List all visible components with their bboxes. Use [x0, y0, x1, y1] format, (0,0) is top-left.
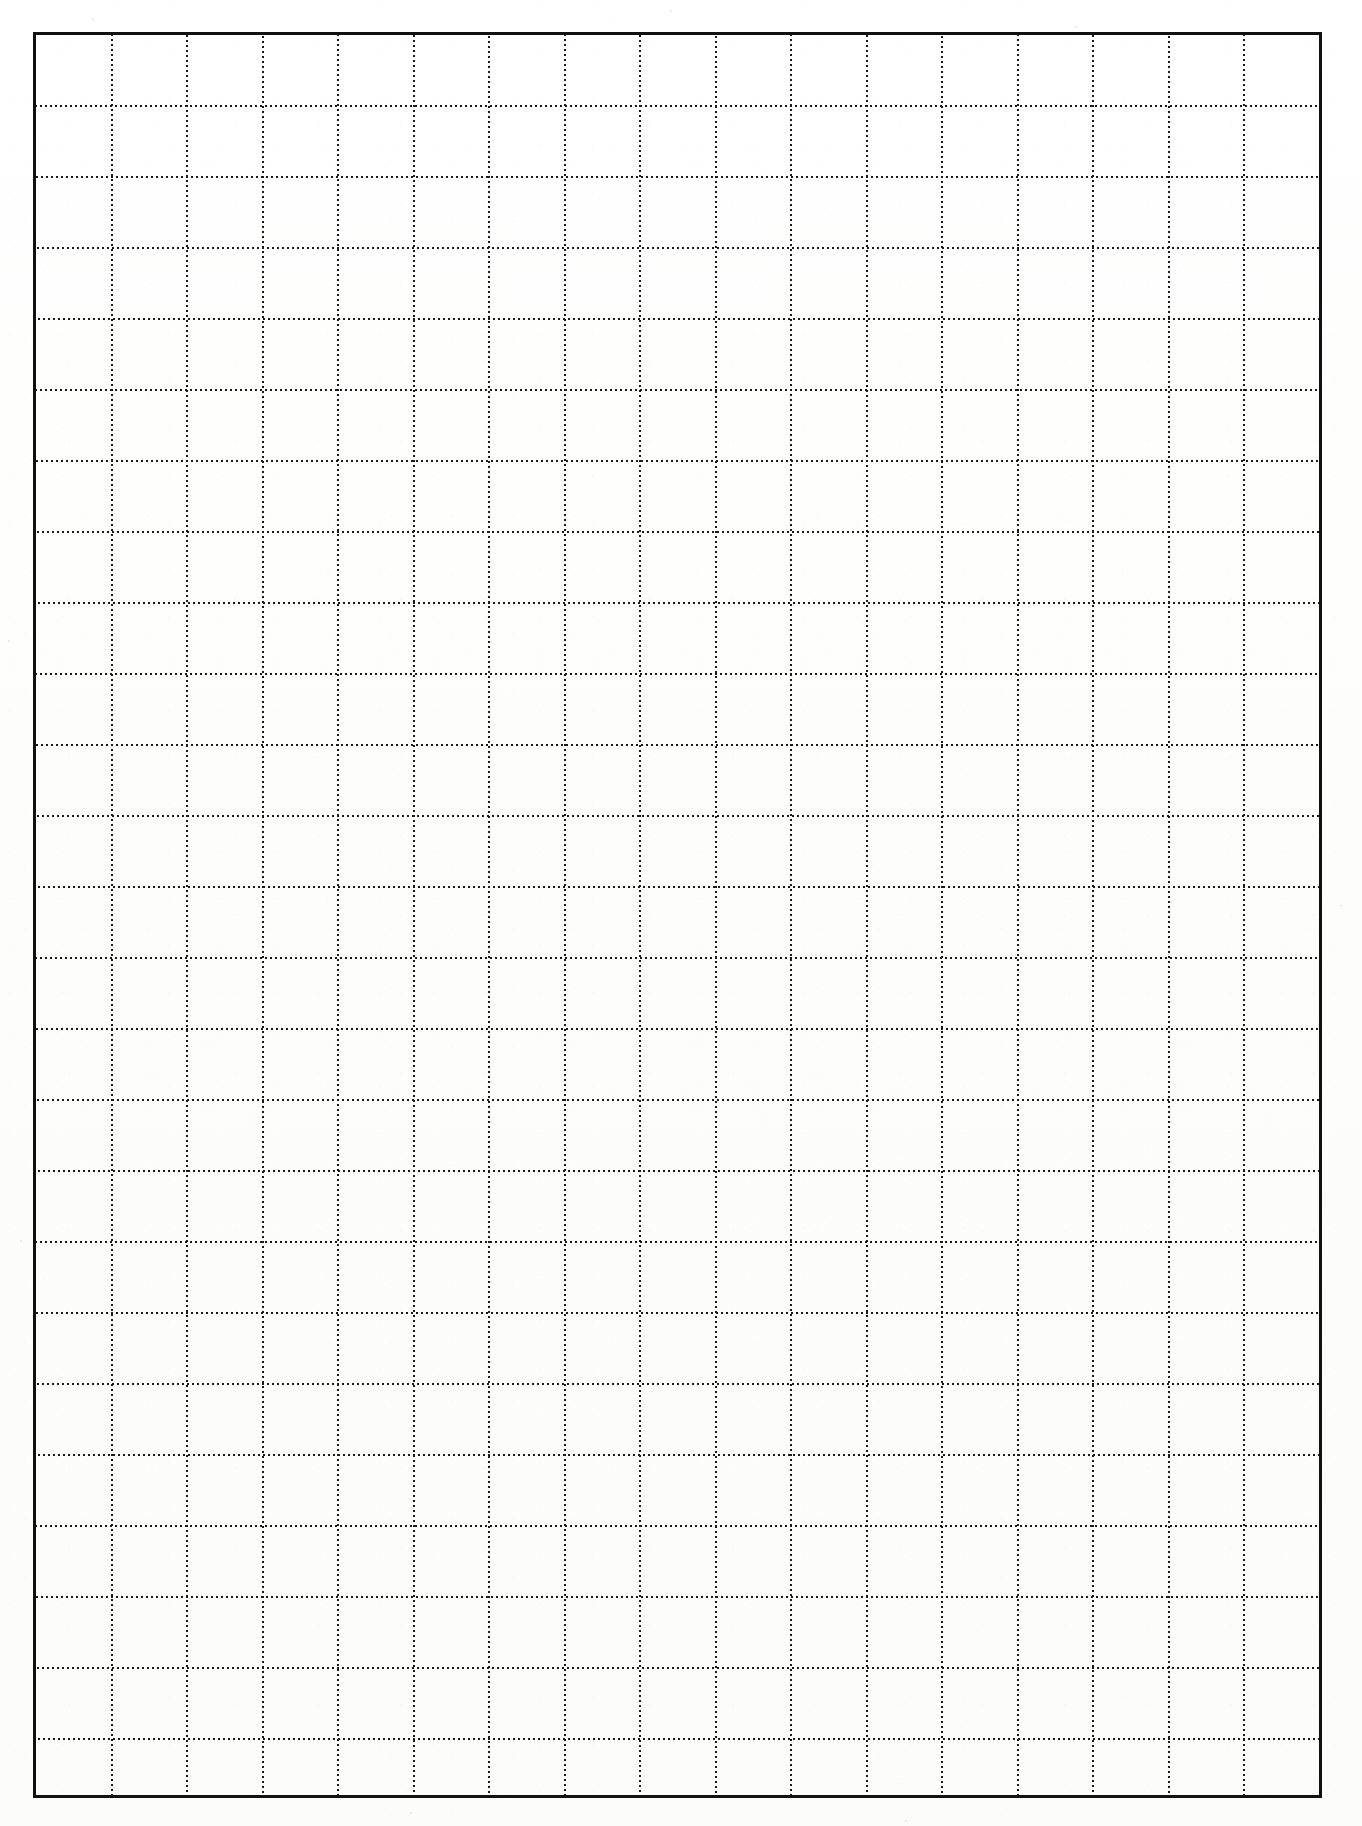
grid-line-vertical — [111, 35, 113, 1795]
grid-line-horizontal — [36, 1312, 1319, 1314]
grid-line-horizontal — [36, 1099, 1319, 1101]
scan-speck — [1075, 26, 1077, 28]
grid-line-vertical — [186, 35, 188, 1795]
grid-line-horizontal — [36, 673, 1319, 675]
grid-line-vertical — [1168, 35, 1170, 1795]
grid-line-vertical — [1017, 35, 1019, 1795]
grid-line-horizontal — [36, 957, 1319, 959]
grid-line-horizontal — [36, 531, 1319, 533]
grid-line-horizontal — [36, 389, 1319, 391]
grid-line-horizontal — [36, 886, 1319, 888]
grid-line-horizontal — [36, 1525, 1319, 1527]
scan-speck — [92, 18, 94, 20]
scan-speck — [410, 1812, 412, 1814]
grid-line-vertical — [790, 35, 792, 1795]
grid-lines — [36, 35, 1319, 1795]
scan-speck — [905, 1820, 907, 1822]
grid-line-vertical — [488, 35, 490, 1795]
grid-line-vertical — [715, 35, 717, 1795]
grid-line-horizontal — [36, 1738, 1319, 1740]
grid-line-vertical — [1243, 35, 1245, 1795]
grid-line-horizontal — [36, 744, 1319, 746]
scanned-page — [0, 0, 1362, 1826]
grid-line-horizontal — [36, 1170, 1319, 1172]
grid-line-horizontal — [36, 602, 1319, 604]
grid-line-vertical — [1092, 35, 1094, 1795]
grid-line-vertical — [564, 35, 566, 1795]
grid-line-vertical — [413, 35, 415, 1795]
grid-line-horizontal — [36, 815, 1319, 817]
grid-line-horizontal — [36, 176, 1319, 178]
grid-line-horizontal — [36, 1241, 1319, 1243]
grid-line-vertical — [639, 35, 641, 1795]
grid-line-horizontal — [36, 1596, 1319, 1598]
grid-line-horizontal — [36, 318, 1319, 320]
grid-line-vertical — [866, 35, 868, 1795]
grid-line-horizontal — [36, 1028, 1319, 1030]
grid-line-horizontal — [36, 460, 1319, 462]
grid-line-horizontal — [36, 1667, 1319, 1669]
scan-speck — [670, 10, 672, 12]
graph-paper-border — [33, 32, 1322, 1798]
grid-line-horizontal — [36, 1383, 1319, 1385]
grid-line-horizontal — [36, 105, 1319, 107]
grid-line-vertical — [262, 35, 264, 1795]
scan-speck — [1340, 905, 1342, 907]
grid-line-vertical — [941, 35, 943, 1795]
grid-line-horizontal — [36, 247, 1319, 249]
scan-speck — [20, 1240, 22, 1242]
grid-line-horizontal — [36, 1454, 1319, 1456]
scan-speck — [8, 640, 10, 642]
grid-line-vertical — [337, 35, 339, 1795]
